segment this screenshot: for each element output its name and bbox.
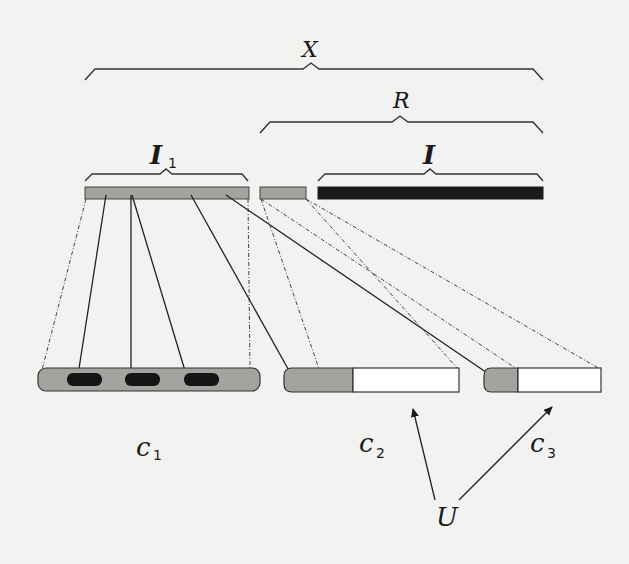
c1-block-1	[67, 373, 102, 386]
brace-x: X	[85, 37, 543, 80]
svg-text:c: c	[359, 428, 374, 458]
svg-text:c: c	[136, 432, 151, 462]
label-r: R	[392, 88, 410, 113]
cell-c1	[38, 368, 260, 391]
mapping-lines	[78, 195, 499, 381]
svg-text:2: 2	[376, 445, 385, 461]
c1-block-2	[125, 373, 160, 386]
label-c3: c 3	[530, 428, 556, 461]
label-u: U	[436, 502, 459, 532]
label-i1-subscript: 1	[168, 155, 177, 171]
pointer-u: U	[413, 407, 552, 532]
svg-text:3: 3	[547, 445, 556, 461]
diagram-canvas: X R I 1 I	[0, 0, 629, 564]
brace-r: R	[260, 88, 543, 133]
arrow-to-c2	[413, 409, 435, 500]
label-c2: c 2	[359, 428, 385, 461]
cell-c3	[484, 368, 601, 392]
bar-gap	[260, 187, 306, 199]
projection-lines-gap	[261, 199, 600, 369]
cell-c2	[284, 368, 459, 392]
label-x: X	[300, 37, 319, 62]
bar-i1	[85, 187, 249, 199]
brace-i: I	[318, 140, 543, 181]
label-i: I	[422, 140, 436, 170]
bar-i	[318, 187, 543, 199]
label-i1: I	[149, 140, 163, 170]
c1-block-3	[184, 373, 219, 386]
brace-i1: I 1	[85, 140, 248, 181]
label-c1: c 1	[136, 432, 162, 463]
projection-lines-c1	[42, 199, 250, 370]
svg-text:c: c	[530, 428, 545, 458]
svg-text:1: 1	[153, 447, 162, 463]
